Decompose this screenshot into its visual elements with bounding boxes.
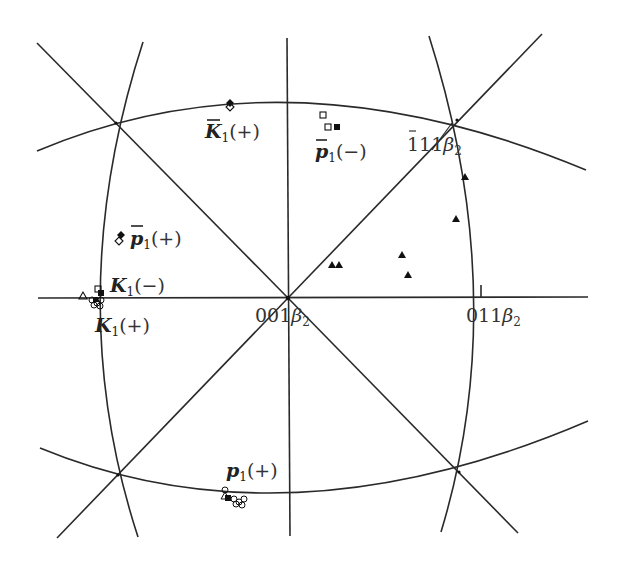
- svg-text:K1(+): K1(+): [204, 120, 260, 145]
- filled-square-icon: [93, 297, 98, 302]
- label-pole-011: 011β2: [466, 304, 521, 329]
- filled-square-icon: [98, 290, 104, 296]
- pbar1-minus-markers: [320, 112, 340, 130]
- center-pole-dot: [286, 296, 290, 300]
- open-square-icon: [320, 112, 326, 118]
- svg-text:p1(+): p1(+): [130, 227, 182, 252]
- diagonal-line-top-left: [37, 43, 288, 298]
- label-pole-001: 001β2: [255, 304, 310, 329]
- p1-plus-cluster-markers: [221, 487, 247, 508]
- svg-text:111β2: 111β2: [407, 133, 462, 158]
- stereographic-projection-diagram: K1(+) p1(−) p1(+) K1(−) K1(+) p1(+) 001β…: [0, 0, 621, 567]
- filled-triangle-icon: [404, 271, 412, 278]
- label-k1-plus: K1(+): [94, 314, 150, 339]
- pbar1-plus-markers: [115, 231, 125, 245]
- diagonal-line-bottom-right: [288, 298, 518, 533]
- horizontal-axis-line: [38, 297, 588, 298]
- diagonal-line-bottom-left: [57, 298, 288, 538]
- right-arc: [429, 36, 474, 532]
- intersection-dot: [116, 473, 119, 476]
- label-pbar1-plus: p1(+): [130, 226, 182, 252]
- filled-triangle-icon: [398, 251, 406, 258]
- filled-square-icon: [225, 495, 231, 501]
- svg-text:p1(−): p1(−): [315, 140, 367, 165]
- open-circle-icon: [241, 496, 247, 502]
- label-pbar1-minus: p1(−): [315, 140, 367, 165]
- label-kbar1-plus: K1(+): [204, 120, 260, 145]
- filled-triangle-icon: [328, 261, 336, 268]
- intersection-dot: [114, 121, 117, 124]
- vertical-axis-line: [287, 38, 290, 536]
- label-pole-111: 111β2: [407, 131, 462, 158]
- open-square-icon: [325, 124, 331, 130]
- intersection-dot: [455, 118, 458, 121]
- diagonal-line-top-right: [288, 34, 542, 298]
- diagram-canvas: K1(+) p1(−) p1(+) K1(−) K1(+) p1(+) 001β…: [0, 0, 621, 567]
- label-p1-plus: p1(+): [226, 459, 278, 484]
- label-k1-minus: K1(−): [109, 274, 165, 299]
- filled-triangle-icon: [452, 215, 460, 222]
- triangle-markers: [328, 173, 469, 278]
- filled-square-icon: [334, 124, 340, 130]
- top-arc: [37, 102, 586, 170]
- intersection-dot: [457, 470, 460, 473]
- filled-triangle-icon: [335, 261, 343, 268]
